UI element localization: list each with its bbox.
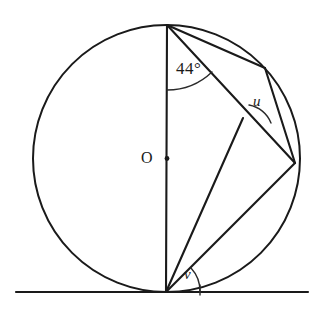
- geometry-canvas: [0, 0, 324, 319]
- segment-bottom-to-crossing: [166, 118, 243, 292]
- center-point-dot: [165, 156, 170, 161]
- segment-chord-top-to-right: [167, 25, 295, 163]
- center-label: O: [141, 150, 153, 166]
- segment-chord-upper-right-to-right: [265, 68, 295, 163]
- geometry-diagram: O 44° u v: [0, 0, 324, 319]
- angle-label-44-degrees: 44°: [176, 60, 201, 77]
- angle-label-u: u: [253, 94, 261, 109]
- angle-label-v: v: [184, 267, 191, 282]
